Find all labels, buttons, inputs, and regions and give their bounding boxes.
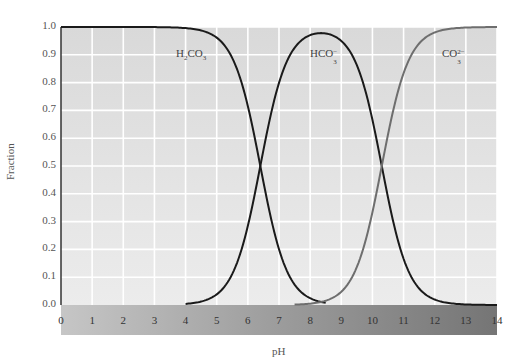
y-tick-label: 0.5: [26, 158, 56, 170]
x-tick-label: 9: [331, 314, 351, 326]
label-co3: CO2−3: [442, 47, 467, 59]
y-tick-label: 0.7: [26, 102, 56, 114]
label-hco3: HCO−3: [310, 47, 339, 59]
y-tick-label: 0.0: [26, 297, 56, 309]
y-tick-label: 0.8: [26, 75, 56, 87]
y-tick-label: 0.2: [26, 241, 56, 253]
y-tick-label: 1.0: [26, 19, 56, 31]
x-axis-label: pH: [272, 345, 285, 357]
y-tick-label: 0.3: [26, 214, 56, 226]
x-tick-label: 6: [238, 314, 258, 326]
x-tick-label: 12: [425, 314, 445, 326]
y-tick-label: 0.6: [26, 130, 56, 142]
x-tick-label: 4: [176, 314, 196, 326]
x-tick-label: 2: [113, 314, 133, 326]
x-tick-label: 1: [82, 314, 102, 326]
label-h2co3: H2CO3: [176, 47, 206, 62]
x-tick-label: 13: [456, 314, 476, 326]
x-tick-label: 5: [207, 314, 227, 326]
y-tick-label: 0.1: [26, 269, 56, 281]
x-tick-label: 8: [300, 314, 320, 326]
y-tick-label: 0.9: [26, 47, 56, 59]
x-tick-label: 3: [144, 314, 164, 326]
x-tick-label: 14: [487, 314, 507, 326]
x-tick-label: 11: [394, 314, 414, 326]
x-tick-label: 10: [362, 314, 382, 326]
y-tick-label: 0.4: [26, 186, 56, 198]
x-tick-label: 0: [51, 314, 71, 326]
y-axis-label: Fraction: [4, 143, 16, 180]
x-tick-label: 7: [269, 314, 289, 326]
